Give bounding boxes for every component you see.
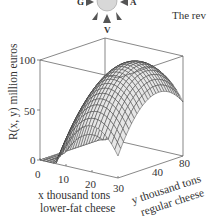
x-tick-10: 10 <box>58 173 70 185</box>
compass-label-g: G <box>77 0 84 7</box>
compass-icon <box>86 0 128 23</box>
box-edge <box>105 38 183 56</box>
body-text-snippet: The rev <box>172 9 206 21</box>
box-edge <box>118 156 183 178</box>
box-edge <box>40 60 118 78</box>
y-tick-80: 80 <box>179 157 191 169</box>
y-tick-40: 40 <box>152 166 164 178</box>
z-axis-title: R(x, y) million euros <box>7 43 20 140</box>
box-edge <box>40 38 105 60</box>
compass-label-v: V <box>104 25 111 35</box>
z-tick-0: 0 <box>30 154 36 166</box>
x-tick-0: 0 <box>35 168 41 180</box>
z-tick-50: 50 <box>24 105 36 117</box>
x-axis-title-line2: lower-fat cheese <box>40 202 115 214</box>
x-axis-title-line1: x thousand tons <box>38 189 111 201</box>
z-tick-100: 100 <box>19 54 36 66</box>
x-tick-30: 30 <box>113 182 125 194</box>
chart-canvas: G A V The rev 100 50 0 0 10 20 30 40 80 … <box>0 0 209 216</box>
box-edge <box>40 160 118 178</box>
compass-label-a: A <box>130 0 137 7</box>
